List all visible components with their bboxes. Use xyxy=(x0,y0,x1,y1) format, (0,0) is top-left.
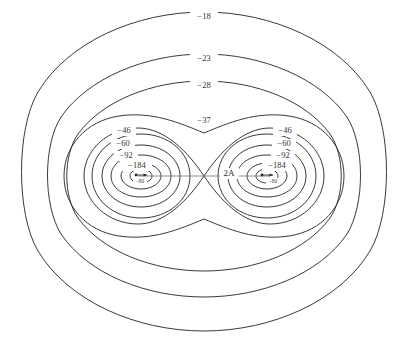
contour-figure: −18 −23 −28 −37 −46 −60 −92 −184 −80 −46 xyxy=(0,0,406,342)
contour-label--37: −37 xyxy=(197,115,210,125)
left-contour-label--80: −80 xyxy=(136,178,145,184)
contour-labels-outer: −18 −23 −28 −37 xyxy=(190,11,218,127)
left-contour-label--46: −46 xyxy=(117,125,130,135)
contour-label--28: −28 xyxy=(197,80,210,90)
right-contour-label--46: −46 xyxy=(278,125,291,135)
left-contour-label--92: −92 xyxy=(119,150,132,160)
separation-label-2A: 2A xyxy=(224,168,236,178)
contour-label--18: −18 xyxy=(197,11,210,21)
right-charge-arrow-head xyxy=(270,173,274,176)
right-contour-label--80: −80 xyxy=(269,178,278,184)
contour-label--23: −23 xyxy=(197,53,210,63)
right-contour-label--92: −92 xyxy=(276,150,289,160)
separation-annotation: 2A xyxy=(220,168,239,179)
contour-plot-canvas: −18 −23 −28 −37 −46 −60 −92 −184 −80 −46 xyxy=(0,0,406,342)
left-contour-label--184: −184 xyxy=(128,160,146,170)
left-contour-label--60: −60 xyxy=(116,138,129,148)
right-contour-label--60: −60 xyxy=(277,138,290,148)
right-contour-label--184: −184 xyxy=(268,160,286,170)
